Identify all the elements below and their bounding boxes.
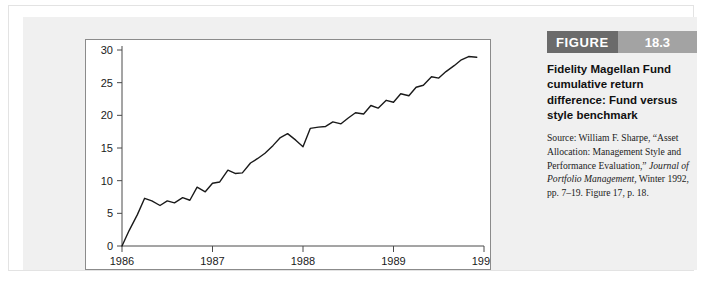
figure-title: Fidelity Magellan Fund cumulative return…: [547, 62, 695, 123]
x-tick-label: 1988: [291, 255, 315, 267]
x-tick-label: 1989: [381, 255, 405, 267]
x-tick-label: 1986: [110, 255, 134, 267]
data-series-line: [122, 57, 477, 246]
figure-source: Source: William F. Sharpe, “Asset Alloca…: [547, 131, 697, 200]
figure-badge-word: FIGURE: [547, 31, 618, 53]
y-tick-label: 15: [101, 142, 113, 154]
figure-caption-column: FIGURE 18.3 Fidelity Magellan Fund cumul…: [547, 31, 702, 200]
y-tick-label: 10: [101, 175, 113, 187]
y-tick-label: 0: [107, 240, 113, 252]
y-tick-label: 30: [101, 44, 113, 56]
figure-badge: FIGURE 18.3: [547, 31, 697, 53]
line-chart: 05101520253019861987198819891990: [86, 40, 490, 269]
y-tick-label: 5: [107, 207, 113, 219]
figure-page: 05101520253019861987198819891990 FIGURE …: [0, 0, 702, 285]
x-tick-label: 1990: [472, 255, 490, 267]
y-tick-label: 25: [101, 77, 113, 89]
x-tick-label: 1987: [200, 255, 224, 267]
chart-plot-area: 05101520253019861987198819891990: [85, 39, 491, 270]
outer-frame: 05101520253019861987198819891990 FIGURE …: [8, 5, 694, 271]
inner-panel: 05101520253019861987198819891990 FIGURE …: [23, 17, 697, 270]
figure-badge-number: 18.3: [618, 31, 697, 53]
y-tick-label: 20: [101, 109, 113, 121]
